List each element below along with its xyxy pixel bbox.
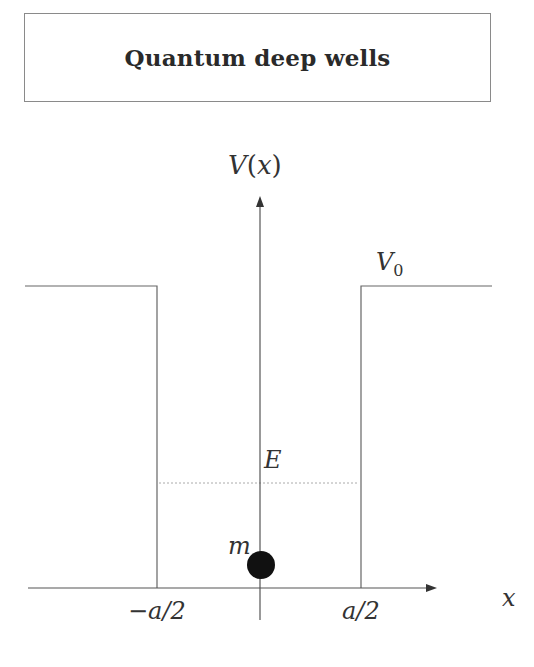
x-axis-arrow-icon	[426, 584, 437, 592]
left-edge-label: −a/2	[128, 597, 186, 625]
particle-icon	[247, 551, 275, 579]
potential-height-label: V0	[376, 248, 404, 280]
left-barrier	[25, 286, 157, 588]
potential-well-diagram: V(x) V0 E m −a/2 a/2 x	[0, 0, 534, 667]
y-axis-label: V(x)	[228, 150, 282, 180]
energy-label: E	[263, 446, 282, 474]
x-axis	[28, 584, 437, 592]
potential-well	[25, 286, 492, 588]
right-barrier	[361, 286, 492, 588]
x-axis-label: x	[502, 584, 516, 612]
y-axis-arrow-icon	[256, 196, 264, 207]
right-edge-label: a/2	[342, 597, 380, 625]
mass-label: m	[228, 532, 251, 560]
